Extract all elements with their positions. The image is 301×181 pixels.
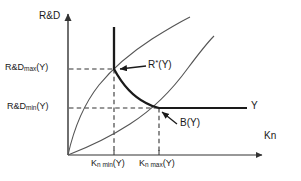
tick-marks — [114, 150, 159, 155]
kn-max-suffix: (Y) — [163, 158, 175, 168]
rd-min-base: R&D — [7, 101, 26, 111]
diagram-canvas — [0, 0, 301, 181]
rd-max-sub: max — [24, 65, 36, 72]
axis-group — [68, 14, 262, 155]
concave-curve — [68, 17, 190, 155]
y-value-label-rd-max: R&Dmax(Y) — [5, 63, 48, 73]
annotation-r-star: R*(Y) — [148, 59, 172, 70]
annotation-b-of-y: B(Y) — [180, 118, 200, 128]
r-star-suffix: (Y) — [158, 59, 171, 70]
dashed-guides — [69, 69, 159, 151]
isoquant-label-y: Y — [251, 101, 258, 111]
y-value-label-rd-min: R&Dmin(Y) — [7, 102, 48, 112]
b-of-y-base: B — [180, 117, 187, 128]
kn-min-suffix: (Y) — [113, 158, 125, 168]
y-axis-title: R&D — [39, 11, 60, 21]
rd-min-sub: min — [26, 104, 36, 111]
x-axis-title: Kn — [264, 131, 276, 141]
x-tick-label-kn-min: Kn min(Y) — [91, 159, 125, 169]
annotation-arrows — [120, 66, 177, 124]
kn-max-sub: n max — [145, 161, 163, 168]
x-tick-label-kn-max: Kn max(Y) — [139, 159, 175, 169]
efficient-frontier-curve — [114, 69, 159, 108]
rd-max-suffix: (Y) — [36, 62, 48, 72]
b-of-y-suffix: (Y) — [187, 117, 200, 128]
rd-capital-diagram: R&D Kn R&Dmax(Y) R&Dmin(Y) Kn min(Y) Kn … — [0, 0, 301, 181]
kn-min-sub: n min — [97, 161, 113, 168]
convex-curve — [68, 36, 214, 155]
arrow-to-r-star — [120, 66, 146, 69]
arrow-to-b-of-y — [162, 112, 177, 124]
rd-min-suffix: (Y) — [36, 101, 48, 111]
rd-max-base: R&D — [5, 62, 24, 72]
